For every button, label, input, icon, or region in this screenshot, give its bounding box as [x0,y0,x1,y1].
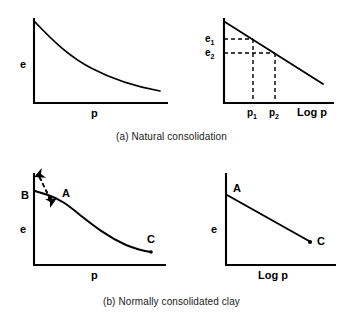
point-label-c: C [317,235,325,247]
chart-b-right-svg [196,163,343,283]
y-tick-label-e1: e1 [205,33,214,46]
y-tick-label-e2: e2 [205,47,214,60]
panel-b-normally-consolidated-clay: B A C e p A C e Log p (b) Normally conso… [0,155,343,319]
x-tick-label-p2: p2 [269,107,279,120]
x-tick-label-p1: p1 [247,107,257,120]
point-marker-c [308,240,312,244]
chart-b-left-svg [8,163,183,283]
x-axis-label: p [91,107,98,119]
y-axis-label: e [211,223,217,235]
point-marker-a [48,196,52,200]
y-axis-label: e [20,223,26,235]
point-label-b: B [21,189,29,201]
a-c-virgin-line [227,195,309,241]
x-axis-label: p [91,269,98,281]
chart-a-left-svg [8,12,183,122]
y-axis-label: e [20,58,26,70]
point-marker-c [149,250,153,254]
chart-b-right: A C e Log p [196,163,343,283]
x-axis-label: Log p [297,106,327,118]
chart-a-left: e p [8,12,183,122]
point-label-c: C [147,233,155,245]
panel-a-natural-consolidation: e p e1 e2 p1 p [0,0,343,150]
caption-panel-a: (a) Natural consolidation [0,131,343,142]
chart-b-left: B A C e p [8,163,183,283]
caption-panel-b: (b) Normally consolidated clay [0,296,343,307]
b-a-c-curve [35,191,151,252]
consolidation-figure: e p e1 e2 p1 p [0,0,343,319]
x-axis-label: Log p [258,269,288,281]
point-label-a: A [233,182,241,194]
e-p-curve [35,22,160,91]
chart-a-right: e1 e2 p1 p2 Log p [196,12,343,122]
point-label-a: A [62,187,70,199]
